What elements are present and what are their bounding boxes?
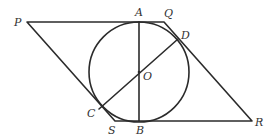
label-b: B: [135, 124, 144, 137]
geometry-diagram: P A Q D O C S B R: [0, 0, 276, 138]
label-c: C: [87, 107, 96, 120]
label-a: A: [134, 6, 143, 19]
label-s: S: [108, 124, 116, 137]
label-r: R: [254, 116, 263, 129]
label-q: Q: [164, 7, 173, 20]
label-p: P: [13, 16, 22, 29]
center-point-o: [138, 71, 141, 74]
label-o: O: [143, 70, 152, 83]
label-d: D: [180, 29, 190, 42]
